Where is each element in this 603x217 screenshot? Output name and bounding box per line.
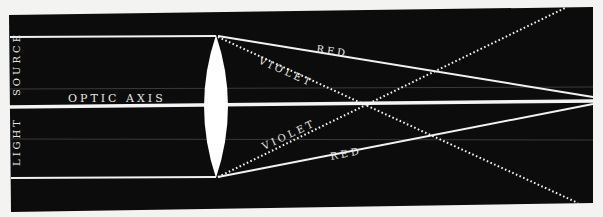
incoming-ray-top xyxy=(10,36,216,37)
chromatic-aberration-diagram: SOURCE LIGHT OPTIC AXIS RED VIOLET VIOLE… xyxy=(0,0,603,217)
label-source: SOURCE xyxy=(11,32,22,96)
label-light: LIGHT xyxy=(11,117,22,166)
incoming-ray-bottom xyxy=(11,177,216,178)
panel-background xyxy=(9,7,593,212)
label-optic-axis: OPTIC AXIS xyxy=(68,92,166,105)
